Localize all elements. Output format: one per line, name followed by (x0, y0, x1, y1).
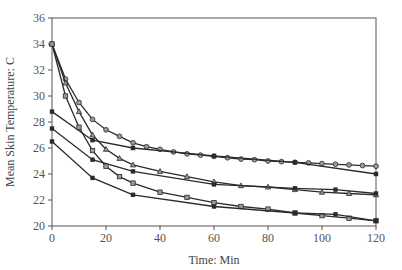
data-point (76, 109, 81, 114)
data-point (63, 94, 67, 98)
x-axis: 020406080100120 (49, 226, 385, 245)
x-tick-label: 20 (100, 231, 112, 245)
data-point (50, 139, 54, 143)
series-1 (50, 42, 379, 169)
data-point (131, 181, 135, 185)
y-tick-label: 34 (33, 37, 45, 51)
data-point (50, 109, 54, 113)
data-point (77, 100, 82, 105)
data-point (90, 158, 94, 162)
data-point (374, 172, 378, 176)
x-tick-label: 100 (313, 231, 331, 245)
data-point (212, 182, 216, 186)
y-tick-label: 28 (33, 115, 45, 129)
data-point (333, 187, 337, 191)
y-tick-label: 20 (33, 219, 45, 233)
data-point (212, 200, 216, 204)
x-axis-title: Time: Min (188, 253, 239, 267)
data-point (131, 146, 135, 150)
x-tick-label: 0 (49, 231, 55, 245)
series-layer (49, 41, 378, 223)
x-tick-label: 80 (262, 231, 274, 245)
data-point (144, 144, 149, 149)
data-point (117, 156, 122, 161)
data-point (320, 161, 325, 166)
plot-border (52, 18, 376, 226)
data-point (212, 204, 216, 208)
data-point (293, 186, 297, 190)
data-point (131, 193, 135, 197)
x-tick-label: 120 (367, 231, 385, 245)
y-tick-label: 32 (33, 63, 45, 77)
data-point (333, 212, 337, 216)
y-axis: 202224262830323436 (33, 11, 52, 233)
series-line (52, 44, 376, 195)
series-line (52, 44, 376, 166)
data-point (333, 162, 338, 167)
data-point (50, 42, 54, 46)
data-point (90, 138, 94, 142)
data-point (158, 190, 162, 194)
data-point (374, 191, 378, 195)
data-point (225, 155, 230, 160)
y-tick-label: 22 (33, 193, 45, 207)
data-point (117, 174, 121, 178)
x-tick-label: 40 (154, 231, 166, 245)
x-tick-label: 60 (208, 231, 220, 245)
data-point (90, 176, 94, 180)
data-point (293, 160, 297, 164)
data-point (374, 219, 378, 223)
y-tick-label: 26 (33, 141, 45, 155)
data-point (374, 164, 379, 169)
data-point (347, 163, 352, 168)
data-point (77, 125, 81, 129)
data-point (50, 126, 54, 130)
data-point (185, 195, 189, 199)
data-point (131, 169, 135, 173)
y-tick-label: 30 (33, 89, 45, 103)
data-point (104, 127, 109, 132)
series-5 (50, 42, 378, 223)
data-point (131, 140, 136, 145)
data-point (104, 164, 108, 168)
y-axis-title: Mean Skin Temperature: C (3, 57, 17, 187)
data-point (360, 163, 365, 168)
data-point (117, 134, 122, 139)
data-point (90, 148, 94, 152)
plot-frame (52, 18, 376, 226)
data-point (90, 117, 95, 122)
data-point (266, 159, 271, 164)
series-3 (49, 41, 378, 197)
data-point (212, 154, 216, 158)
data-point (293, 211, 297, 215)
y-tick-label: 24 (33, 167, 45, 181)
y-tick-label: 36 (33, 11, 45, 25)
series-line (52, 44, 376, 221)
line-chart: 202224262830323436 020406080100120 Time:… (0, 0, 402, 270)
series-4 (50, 126, 378, 195)
